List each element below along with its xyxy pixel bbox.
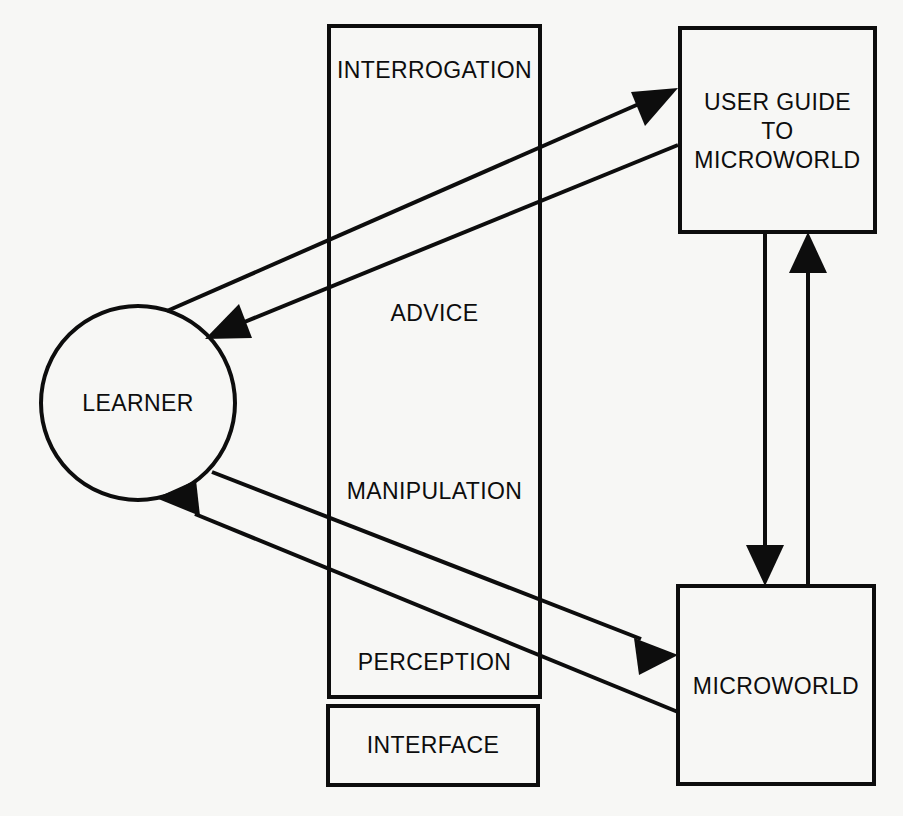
microworld-to-guide-arrow (789, 232, 827, 586)
interface-container-rect (329, 26, 540, 697)
microworld-rect (678, 586, 874, 784)
interrogation-arrow (167, 88, 678, 311)
diagram-canvas: LEARNER USER GUIDE TO MICROWORLD MICROWO… (0, 0, 903, 816)
user-guide-rect (680, 28, 875, 232)
perception-label: PERCEPTION (329, 649, 540, 676)
interrogation-label: INTERROGATION (329, 57, 540, 84)
learner-circle (41, 306, 235, 500)
guide-to-microworld-arrow (746, 232, 784, 586)
diagram-vector-layer (0, 0, 903, 816)
manipulation-label: MANIPULATION (329, 478, 540, 505)
interface-box-rect (328, 706, 538, 785)
perception-arrow (156, 480, 678, 712)
advice-label: ADVICE (329, 300, 540, 327)
